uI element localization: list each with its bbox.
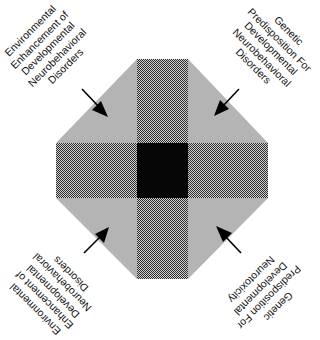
center-square bbox=[137, 143, 188, 198]
